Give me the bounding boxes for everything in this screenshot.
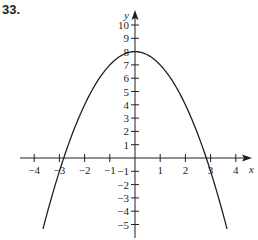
- y-tick-label: −5: [117, 219, 129, 231]
- x-tick-label: −2: [79, 164, 91, 176]
- x-tick-label: 2: [183, 164, 189, 176]
- chart: xy−4−3−2−11234−5−4−3−2−112345678910: [0, 0, 258, 240]
- y-tick-label: 5: [124, 86, 130, 98]
- x-tick-label: −4: [28, 164, 40, 176]
- y-tick-label: 8: [124, 46, 130, 58]
- y-tick-label: −4: [117, 205, 129, 217]
- x-axis-label: x: [248, 163, 254, 175]
- x-tick-label: 1: [157, 164, 163, 176]
- y-tick-label: 9: [124, 32, 130, 44]
- y-tick-label: 1: [124, 139, 130, 151]
- x-tick-label: −1: [104, 164, 116, 176]
- y-tick-label: 7: [124, 59, 130, 71]
- tick-labels: xy−4−3−2−11234−5−4−3−2−112345678910: [28, 9, 254, 231]
- y-tick-label: 6: [124, 72, 130, 84]
- axes: [20, 10, 252, 238]
- y-tick-label: −1: [117, 165, 129, 177]
- y-tick-label: 2: [124, 125, 130, 137]
- y-tick-label: 3: [124, 112, 130, 124]
- x-tick-label: 4: [233, 164, 239, 176]
- y-tick-label: −2: [117, 179, 129, 191]
- y-tick-label: 10: [118, 19, 130, 31]
- y-tick-label: 4: [124, 99, 130, 111]
- y-tick-label: −3: [117, 192, 129, 204]
